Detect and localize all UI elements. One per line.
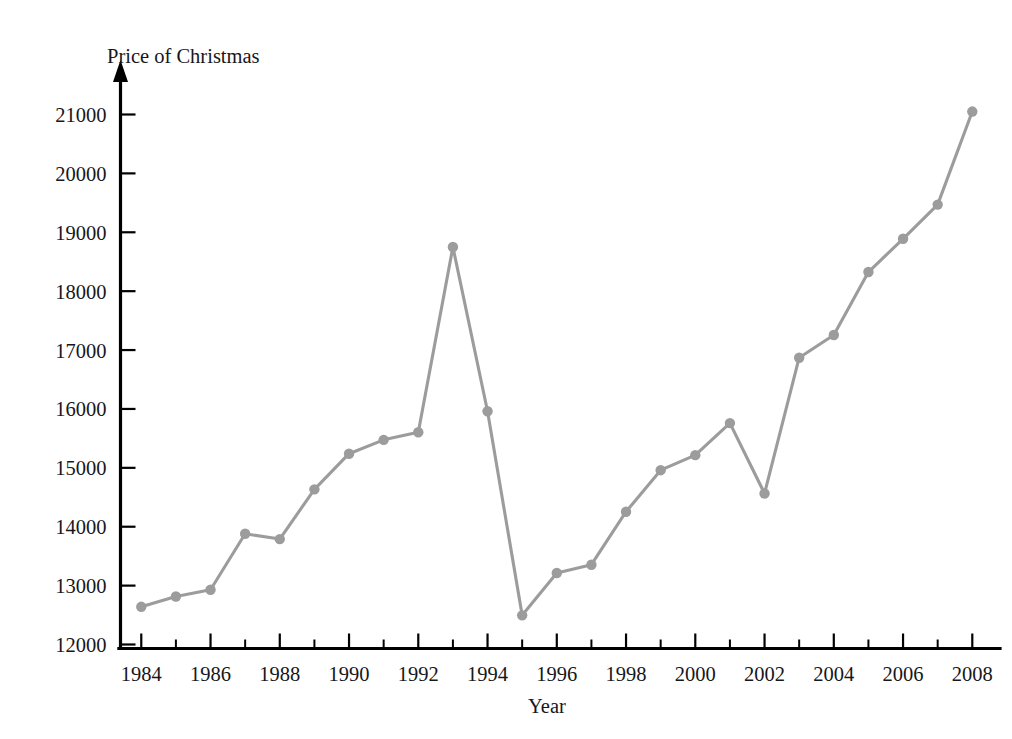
- data-point-1984: [136, 602, 146, 612]
- data-point-2005: [863, 267, 873, 277]
- x-tick-label-1984: 1984: [121, 663, 162, 685]
- series-group: [136, 106, 977, 620]
- data-point-2002: [759, 488, 769, 498]
- price-of-christmas-line: [141, 112, 972, 616]
- line-chart: 1200013000140001500016000170001800019000…: [0, 0, 1012, 739]
- data-point-1996: [552, 568, 562, 578]
- x-tick-label-2000: 2000: [675, 663, 716, 685]
- y-tick-label-12000: 12000: [55, 634, 106, 656]
- x-tick-label-2006: 2006: [883, 663, 924, 685]
- data-point-2003: [794, 353, 804, 363]
- data-point-2001: [725, 418, 735, 428]
- data-point-1995: [517, 610, 527, 620]
- data-point-1990: [344, 449, 354, 459]
- x-tick-label-1988: 1988: [259, 663, 300, 685]
- y-tick-label-16000: 16000: [55, 398, 106, 420]
- data-point-1998: [621, 507, 631, 517]
- data-point-1994: [482, 406, 492, 416]
- price-of-christmas-markers: [136, 106, 977, 620]
- y-tick-label-21000: 21000: [55, 104, 106, 126]
- x-tick-label-1996: 1996: [536, 663, 577, 685]
- data-point-1986: [205, 585, 215, 595]
- y-axis-title: Price of Christmas: [107, 45, 260, 67]
- y-tick-label-20000: 20000: [55, 163, 106, 185]
- y-axis-group: 1200013000140001500016000170001800019000…: [55, 60, 135, 656]
- data-point-1997: [586, 560, 596, 570]
- data-point-2006: [898, 234, 908, 244]
- x-tick-label-2004: 2004: [813, 663, 854, 685]
- x-tick-label-1998: 1998: [606, 663, 647, 685]
- y-tick-label-19000: 19000: [55, 222, 106, 244]
- data-point-2000: [690, 450, 700, 460]
- data-point-1988: [275, 534, 285, 544]
- y-tick-label-15000: 15000: [55, 457, 106, 479]
- y-tick-label-17000: 17000: [55, 340, 106, 362]
- x-tick-label-1992: 1992: [398, 663, 439, 685]
- data-point-1985: [171, 591, 181, 601]
- data-point-1989: [309, 484, 319, 494]
- x-axis-title: Year: [528, 695, 566, 717]
- y-tick-label-13000: 13000: [55, 575, 106, 597]
- data-point-1993: [448, 242, 458, 252]
- x-tick-label-1990: 1990: [329, 663, 370, 685]
- x-tick-label-1994: 1994: [467, 663, 508, 685]
- y-axis-tick-labels: 1200013000140001500016000170001800019000…: [55, 104, 106, 656]
- y-axis-ticks: [121, 115, 136, 645]
- data-point-1999: [655, 465, 665, 475]
- data-point-2007: [932, 199, 942, 209]
- data-point-1992: [413, 427, 423, 437]
- data-point-1987: [240, 529, 250, 539]
- x-tick-label-1986: 1986: [190, 663, 231, 685]
- x-axis-ticks: [141, 634, 972, 649]
- y-tick-label-18000: 18000: [55, 281, 106, 303]
- x-axis-tick-labels: 1984198619881990199219941996199820002002…: [121, 663, 993, 685]
- x-axis-group: 1984198619881990199219941996199820002002…: [119, 634, 1000, 685]
- data-point-1991: [378, 435, 388, 445]
- y-tick-label-14000: 14000: [55, 516, 106, 538]
- chart-container: 1200013000140001500016000170001800019000…: [0, 0, 1012, 739]
- x-tick-label-2008: 2008: [952, 663, 993, 685]
- data-point-2004: [829, 330, 839, 340]
- x-tick-label-2002: 2002: [744, 663, 785, 685]
- data-point-2008: [967, 106, 977, 116]
